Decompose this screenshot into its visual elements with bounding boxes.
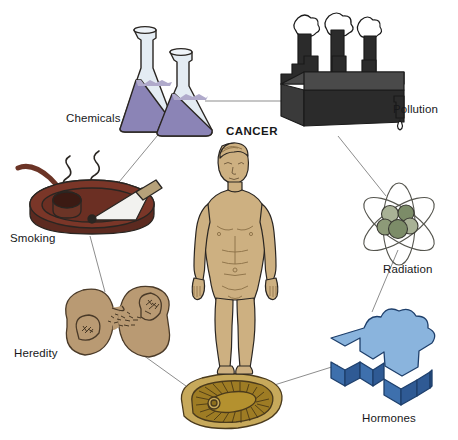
organ-cross-section-icon xyxy=(176,371,286,431)
node-radiation[interactable] xyxy=(355,183,443,265)
erlenmeyer-flasks-icon xyxy=(120,22,216,138)
page-title: CANCER xyxy=(226,126,278,138)
node-hormones[interactable] xyxy=(322,300,434,408)
label-smoking: Smoking xyxy=(10,233,55,245)
factory-smokestacks-icon xyxy=(276,12,406,138)
dividing-cell-icon xyxy=(55,283,179,365)
hormone-molecule-block-icon xyxy=(322,300,434,408)
human-body-figure xyxy=(188,140,280,376)
atom-nucleus-icon xyxy=(355,183,443,265)
node-chemicals[interactable] xyxy=(120,22,216,138)
node-smoking[interactable] xyxy=(16,148,168,240)
label-pollution: Pollution xyxy=(393,104,438,116)
node-organ-cross-section[interactable] xyxy=(176,371,286,431)
node-pollution[interactable] xyxy=(276,12,406,138)
node-center-body[interactable] xyxy=(188,140,280,376)
ashtray-pipe-cigarette-icon xyxy=(16,148,168,240)
diagram-canvas: Chemicals xyxy=(0,0,458,440)
label-hormones: Hormones xyxy=(362,413,416,425)
node-heredity[interactable] xyxy=(55,283,179,365)
label-radiation: Radiation xyxy=(383,264,433,276)
label-chemicals: Chemicals xyxy=(66,113,121,125)
label-heredity: Heredity xyxy=(14,348,58,360)
